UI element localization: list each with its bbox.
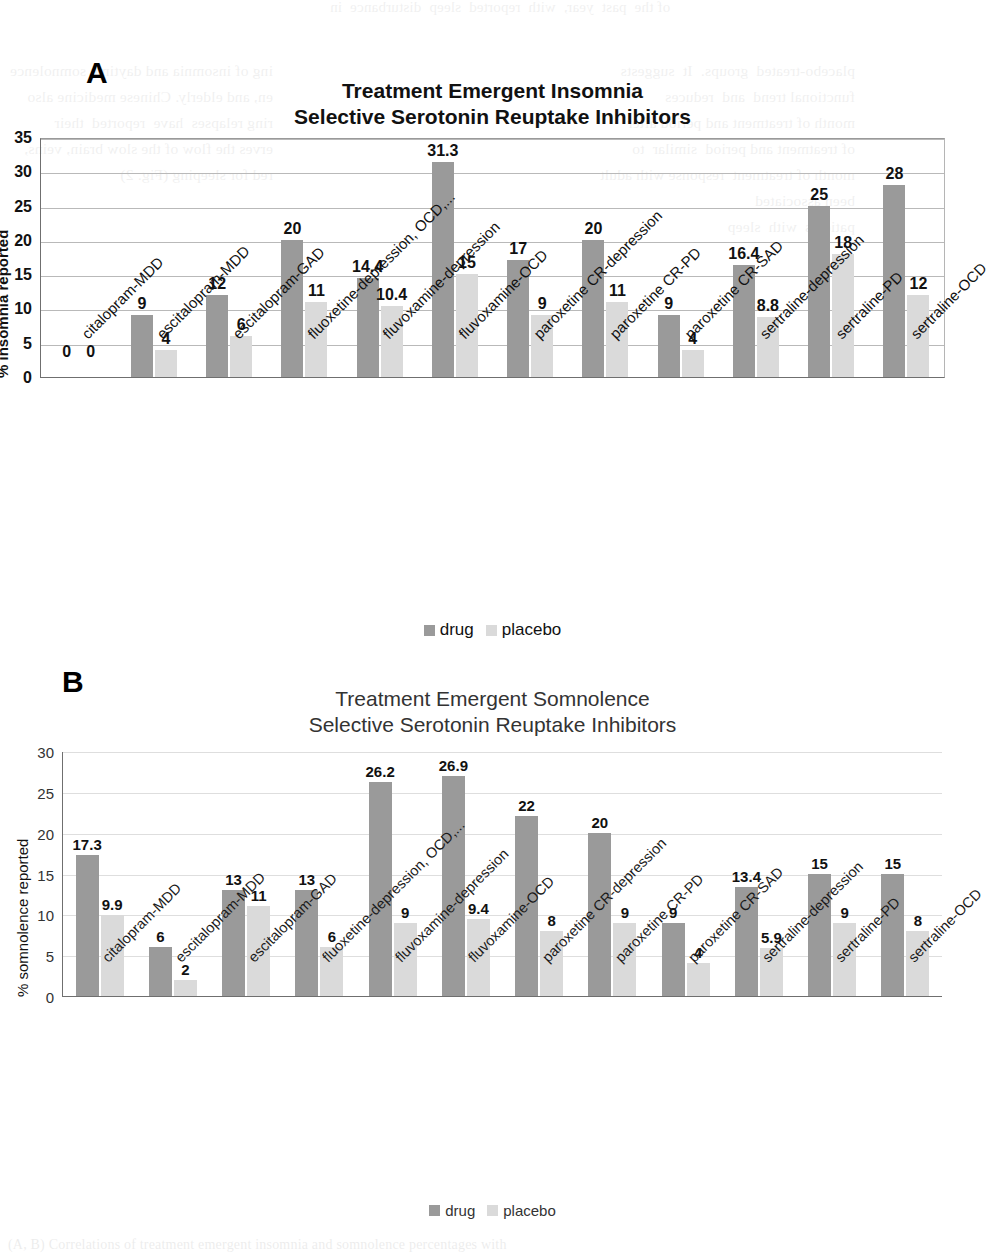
- bar-group: 228: [503, 752, 576, 996]
- bar-group: 62: [136, 752, 209, 996]
- bar-value-label: 26.9: [439, 757, 468, 774]
- bar-value-label: 9: [401, 904, 409, 921]
- legend-swatch-drug: [424, 625, 435, 636]
- bar-drug: 9: [662, 923, 685, 997]
- bar-value-label: 22: [518, 797, 535, 814]
- bar-value-label: 9: [538, 295, 547, 313]
- y-tick-label: 30: [37, 744, 54, 761]
- bar-value-label: 9: [621, 904, 629, 921]
- bar-drug: 12: [206, 295, 228, 377]
- plot-frame: 17.39.962131113626.2926.99.42282099413.4…: [62, 752, 942, 997]
- y-tick-label: 10: [14, 300, 32, 318]
- bar-value-label: 11: [308, 282, 325, 300]
- bar-placebo: 4: [682, 350, 704, 377]
- bar-value-label: 20: [584, 220, 602, 238]
- bar-drug: 9: [131, 315, 153, 377]
- y-tick-label: 25: [14, 198, 32, 216]
- legend-item-placebo: placebo: [487, 1202, 556, 1219]
- scan-bleed-top: of the past year, with reported sleep di…: [330, 0, 670, 20]
- bar-group: 17.39.9: [63, 752, 136, 996]
- bar-group: 136: [283, 752, 356, 996]
- bar-placebo: 4: [687, 963, 710, 996]
- y-tick-label: 10: [37, 907, 54, 924]
- bar-value-label: 10.4: [376, 286, 407, 304]
- bar-group: 94: [649, 752, 722, 996]
- y-tick-label: 15: [14, 266, 32, 284]
- bar-drug: 17.3: [76, 855, 99, 996]
- y-tick-label: 5: [23, 335, 32, 353]
- y-tick-label: 0: [23, 369, 32, 387]
- bar-value-label: 28: [885, 165, 903, 183]
- bar-placebo: 2: [174, 980, 197, 996]
- chart-panel-b: Treatment Emergent Somnolence Selective …: [0, 686, 985, 997]
- chart-b-title-line2: Selective Serotonin Reuptake Inhibitors: [0, 712, 985, 738]
- y-tick-label: 25: [37, 784, 54, 801]
- legend-label-placebo: placebo: [503, 1202, 556, 1219]
- legend-swatch-drug: [429, 1205, 440, 1216]
- y-tick-label: 30: [14, 163, 32, 181]
- y-tick-label: 35: [14, 129, 32, 147]
- y-axis-ticks: 05101520253035: [2, 138, 36, 378]
- bar-value-label: 9: [137, 295, 146, 313]
- bar-value-label: 6: [156, 928, 164, 945]
- bar-value-label: 8: [914, 912, 922, 929]
- bar-value-label: 25: [810, 186, 828, 204]
- y-tick-label: 20: [14, 232, 32, 250]
- bar-value-label: 0: [86, 343, 95, 361]
- bar-value-label: 15: [885, 855, 902, 872]
- bar-value-label: 9: [840, 904, 848, 921]
- chart-a-title-line1: Treatment Emergent Insomnia: [0, 78, 985, 104]
- bar-value-label: 9.4: [468, 900, 489, 917]
- bar-placebo: 4: [155, 350, 177, 377]
- y-tick-label: 15: [37, 866, 54, 883]
- bar-value-label: 20: [283, 220, 301, 238]
- chart-panel-a: Treatment Emergent Insomnia Selective Se…: [0, 78, 985, 378]
- legend-label-drug: drug: [440, 620, 474, 640]
- bar-groups: 17.39.962131113626.2926.99.42282099413.4…: [63, 752, 942, 996]
- legend-swatch-placebo: [487, 1205, 498, 1216]
- y-tick-label: 5: [46, 948, 54, 965]
- plot-frame: 0094126201114.410.431.31517920119416.48.…: [40, 138, 945, 378]
- bar-value-label: 15: [811, 855, 828, 872]
- y-tick-label: 0: [46, 989, 54, 1006]
- bar-value-label: 9: [664, 295, 673, 313]
- bar-value-label: 11: [609, 282, 626, 300]
- bar-group: 158: [869, 752, 942, 996]
- bar-drug: 9: [658, 315, 680, 377]
- bar-group: 2812: [869, 139, 944, 377]
- bar-value-label: 26.2: [366, 763, 395, 780]
- bar-value-label: 20: [592, 814, 609, 831]
- bar-value-label: 17: [509, 240, 527, 258]
- legend-item-drug: drug: [424, 620, 474, 640]
- legend-label-placebo: placebo: [502, 620, 562, 640]
- bar-value-label: 31.3: [427, 142, 458, 160]
- bar-value-label: 17.3: [73, 836, 102, 853]
- chart-a-legend: drug placebo: [0, 620, 985, 640]
- legend-label-drug: drug: [445, 1202, 475, 1219]
- bar-value-label: 12: [909, 275, 927, 293]
- bar-value-label: 8: [547, 912, 555, 929]
- bar-drug: 6: [149, 947, 172, 996]
- chart-b-title-line1: Treatment Emergent Somnolence: [0, 686, 985, 712]
- bar-value-label: 0: [62, 343, 71, 361]
- legend-item-drug: drug: [429, 1202, 475, 1219]
- chart-a-title-line2: Selective Serotonin Reuptake Inhibitors: [0, 104, 985, 130]
- figure-caption: (A, B) Correlations of treatment emergen…: [8, 1232, 507, 1257]
- y-tick-label: 20: [37, 825, 54, 842]
- legend-swatch-placebo: [486, 625, 497, 636]
- bar-groups: 0094126201114.410.431.31517920119416.48.…: [41, 139, 944, 377]
- bar-placebo: 6: [230, 336, 252, 377]
- bar-group: 00: [41, 139, 116, 377]
- bar-value-label: 9.9: [102, 896, 123, 913]
- bar-drug: 15: [881, 874, 904, 997]
- bar-group: 1311: [210, 752, 283, 996]
- legend-item-placebo: placebo: [486, 620, 562, 640]
- chart-b-legend: drug placebo: [0, 1202, 985, 1219]
- y-axis-ticks: 051015202530: [24, 752, 58, 997]
